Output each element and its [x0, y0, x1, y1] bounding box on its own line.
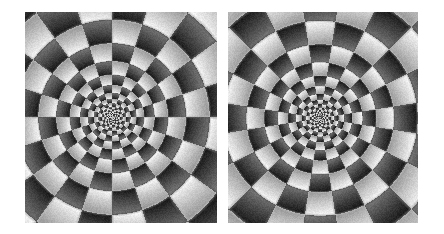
illusion-canvas-left	[25, 12, 217, 223]
illusion-canvas-right	[228, 12, 418, 223]
illusion-figure: Two polar checkerboard illusion patterns	[0, 0, 444, 234]
illusion-panel-right	[228, 12, 418, 223]
illusion-panel-left	[25, 12, 217, 223]
